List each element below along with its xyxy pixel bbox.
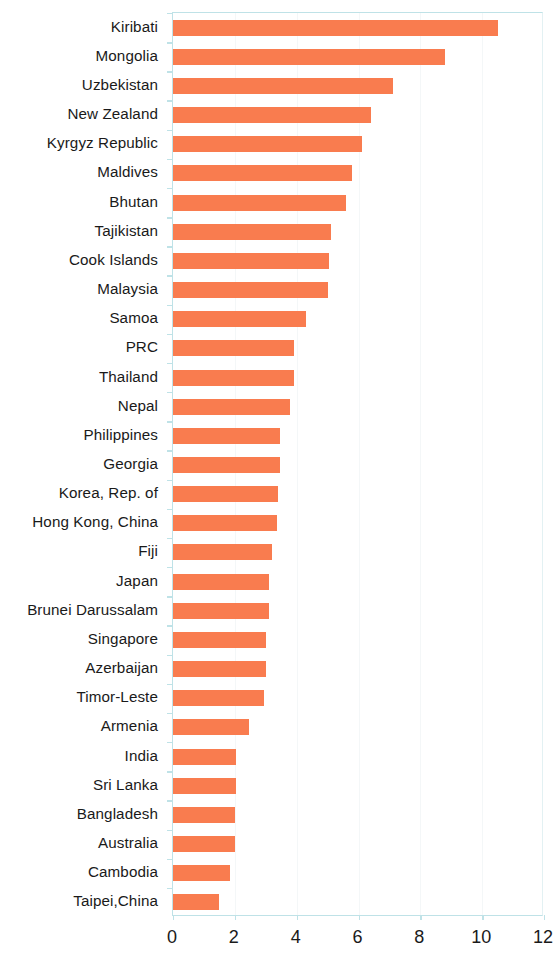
y-axis-label: Samoa: [109, 310, 158, 325]
y-axis-tick: [167, 275, 173, 276]
bar: [173, 894, 219, 910]
y-axis-label: Brunei Darussalam: [27, 602, 158, 617]
y-axis-label: Taipei,China: [73, 893, 158, 908]
y-axis-tick: [167, 130, 173, 131]
x-axis-tick-label: 12: [533, 928, 553, 946]
bar: [173, 78, 393, 94]
bar: [173, 836, 235, 852]
y-axis-tick: [167, 538, 173, 539]
y-axis-label: Maldives: [97, 164, 158, 179]
y-axis-tick: [167, 625, 173, 626]
y-axis-tick: [167, 655, 173, 656]
gridline-vertical: [420, 13, 421, 915]
y-axis-label: Australia: [98, 835, 158, 850]
x-axis-tick: [359, 915, 360, 920]
y-axis-tick: [167, 742, 173, 743]
bar: [173, 107, 371, 123]
x-axis-tick-label: 10: [471, 928, 491, 946]
y-axis-label: Sri Lanka: [93, 777, 158, 792]
x-axis-tick: [544, 915, 545, 920]
y-axis-tick: [167, 100, 173, 101]
x-axis-tick-label: 0: [167, 928, 177, 946]
y-axis-label: India: [125, 748, 158, 763]
y-axis-tick: [167, 159, 173, 160]
y-axis-label: New Zealand: [67, 106, 158, 121]
x-axis-tick-label: 6: [352, 928, 362, 946]
bar: [173, 224, 331, 240]
bar: [173, 399, 290, 415]
y-axis-label: Tajikistan: [95, 223, 158, 238]
bar: [173, 49, 445, 65]
y-axis-tick: [167, 830, 173, 831]
y-axis-tick: [167, 771, 173, 772]
bar: [173, 340, 294, 356]
bar: [173, 253, 329, 269]
x-axis-tick: [482, 915, 483, 920]
y-axis-label: Armenia: [101, 718, 158, 733]
x-axis-tick: [420, 915, 421, 920]
y-axis-tick: [167, 684, 173, 685]
bar: [173, 486, 278, 502]
bar: [173, 20, 498, 36]
bar: [173, 719, 249, 735]
bar: [173, 661, 266, 677]
y-axis-label: Cambodia: [88, 864, 158, 879]
y-axis-tick: [167, 421, 173, 422]
y-axis-label: Japan: [116, 573, 158, 588]
x-axis-tick: [235, 915, 236, 920]
y-axis-label: Hong Kong, China: [32, 514, 158, 529]
bar: [173, 136, 362, 152]
x-axis-tick-labels: 024681012: [0, 928, 552, 968]
plot-area: [172, 12, 543, 916]
bar: [173, 165, 352, 181]
y-axis-tick: [167, 363, 173, 364]
gridline-vertical: [482, 13, 483, 915]
y-axis-label: Nepal: [118, 398, 158, 413]
y-axis-label: Bangladesh: [77, 806, 158, 821]
bar: [173, 370, 294, 386]
y-axis-tick: [167, 509, 173, 510]
bar: [173, 865, 230, 881]
y-axis-tick: [167, 305, 173, 306]
bar: [173, 574, 269, 590]
y-axis-tick: [167, 246, 173, 247]
y-axis-label: Korea, Rep. of: [59, 485, 158, 500]
y-axis-category-labels: KiribatiMongoliaUzbekistanNew ZealandKyr…: [0, 0, 166, 916]
bar: [173, 690, 264, 706]
x-axis-tick-label: 4: [291, 928, 301, 946]
y-axis-tick: [167, 334, 173, 335]
y-axis-tick: [167, 596, 173, 597]
y-axis-tick: [167, 188, 173, 189]
bar: [173, 603, 269, 619]
y-axis-label: Singapore: [88, 631, 158, 646]
y-axis-label: Kiribati: [111, 19, 158, 34]
y-axis-label: Kyrgyz Republic: [47, 135, 158, 150]
y-axis-tick: [167, 13, 173, 14]
y-axis-label: Timor-Leste: [76, 689, 158, 704]
y-axis-label: PRC: [126, 339, 158, 354]
bar: [173, 282, 328, 298]
x-axis-tick-label: 2: [229, 928, 239, 946]
y-axis-tick: [167, 217, 173, 218]
y-axis-tick: [167, 42, 173, 43]
y-axis-label: Cook Islands: [69, 252, 158, 267]
y-axis-tick: [167, 392, 173, 393]
bar: [173, 195, 346, 211]
y-axis-tick: [167, 71, 173, 72]
bar: [173, 311, 306, 327]
bar: [173, 807, 235, 823]
bar: [173, 457, 280, 473]
y-axis-tick: [167, 859, 173, 860]
x-axis-tick: [297, 915, 298, 920]
bar: [173, 778, 236, 794]
bar: [173, 428, 280, 444]
y-axis-tick: [167, 888, 173, 889]
y-axis-label: Fiji: [138, 543, 158, 558]
y-axis-tick: [167, 713, 173, 714]
bar: [173, 544, 272, 560]
y-axis-label: Thailand: [99, 369, 158, 384]
bar: [173, 515, 277, 531]
y-axis-label: Georgia: [103, 456, 158, 471]
y-axis-label: Bhutan: [109, 194, 158, 209]
